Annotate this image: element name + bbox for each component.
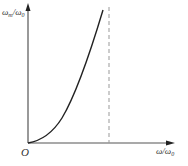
y-axis-arrow-icon — [26, 3, 31, 11]
chart-figure — [0, 0, 188, 166]
y-axis-label: ωm/ω0 — [2, 8, 25, 18]
curve-line — [28, 10, 103, 143]
x-axis-arrow-icon — [166, 141, 175, 146]
origin-label: O — [21, 147, 29, 158]
x-axis-label: ω/ω0 — [156, 147, 174, 157]
